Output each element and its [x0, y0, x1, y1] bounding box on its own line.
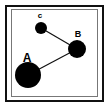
node-c-label: c — [38, 11, 43, 20]
node-c — [35, 22, 47, 34]
outer-frame — [6, 6, 103, 101]
node-a-label: A — [23, 51, 32, 65]
node-a — [15, 62, 41, 88]
diagram-canvas: A B c — [0, 0, 111, 106]
node-b-label: B — [75, 29, 82, 39]
node-b — [68, 40, 86, 58]
